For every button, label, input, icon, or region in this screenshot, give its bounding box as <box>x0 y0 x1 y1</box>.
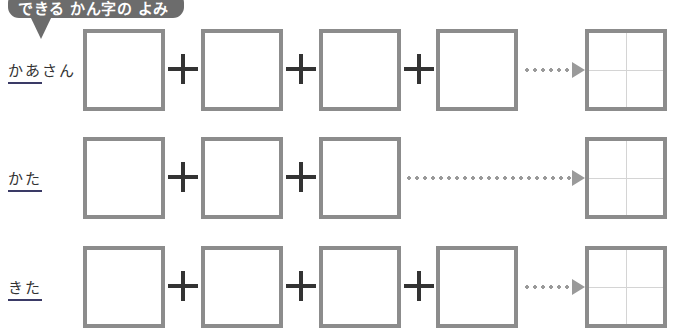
plus-icon <box>286 162 316 192</box>
exercise-row-3: きた <box>0 246 683 328</box>
reading-label: きた <box>8 276 42 297</box>
answer-kanji-box[interactable] <box>585 29 667 111</box>
kanji-input-box[interactable] <box>319 137 401 219</box>
guide-line-horizontal <box>589 178 663 179</box>
kanji-input-box[interactable] <box>201 29 283 111</box>
underlined-reading: かあ <box>8 62 42 84</box>
plus-icon <box>286 54 316 84</box>
underlined-reading: かた <box>8 170 42 192</box>
dotted-leader <box>523 285 571 289</box>
kanji-input-box[interactable] <box>83 29 165 111</box>
plus-icon <box>404 54 434 84</box>
arrow-right-icon <box>572 170 585 186</box>
reading-label: かあさん <box>8 59 76 80</box>
kanji-input-box[interactable] <box>83 246 165 328</box>
exercise-row-1: かあさん <box>0 29 683 111</box>
kanji-input-box[interactable] <box>201 246 283 328</box>
dotted-leader <box>523 68 571 72</box>
exercise-row-2: かた <box>0 137 683 219</box>
kanji-input-box[interactable] <box>83 137 165 219</box>
guide-line-horizontal <box>589 287 663 288</box>
answer-kanji-box[interactable] <box>585 246 667 328</box>
kanji-input-box[interactable] <box>436 246 518 328</box>
plus-icon <box>286 271 316 301</box>
guide-line-horizontal <box>589 70 663 71</box>
kanji-input-box[interactable] <box>201 137 283 219</box>
answer-kanji-box[interactable] <box>585 137 667 219</box>
reading-label: かた <box>8 167 42 188</box>
plus-icon <box>168 54 198 84</box>
kanji-input-box[interactable] <box>436 29 518 111</box>
dotted-leader <box>405 176 571 180</box>
reading-suffix: さん <box>42 62 76 80</box>
plus-icon <box>404 271 434 301</box>
arrow-right-icon <box>572 279 585 295</box>
plus-icon <box>168 162 198 192</box>
plus-icon <box>168 271 198 301</box>
kanji-input-box[interactable] <box>319 246 401 328</box>
kanji-input-box[interactable] <box>319 29 401 111</box>
arrow-right-icon <box>572 62 585 78</box>
underlined-reading: きた <box>8 279 42 301</box>
